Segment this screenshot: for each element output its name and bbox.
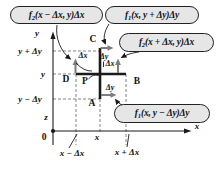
x-axis-label: x	[195, 122, 200, 131]
callout-text: f2(x + Δx, y)Δx	[139, 37, 194, 48]
y-tick-y-plus-dy: y + Δy	[18, 47, 41, 56]
x-axis-arrowhead	[184, 128, 192, 133]
leader-P-to-center	[89, 75, 99, 79]
leader-x-plus-dx	[127, 134, 129, 147]
f-args: (x + Δx, y)Δx	[145, 37, 194, 47]
f-args: (x − Δx, y)Δx	[35, 10, 84, 20]
callout-text: f2(x − Δx, y)Δx	[29, 10, 85, 21]
origin-label: 0	[42, 133, 47, 143]
point-label-D: D	[63, 75, 70, 85]
leader-dx-left-arc	[76, 63, 92, 71]
f-args: (x, y − Δy)Δy	[141, 108, 189, 118]
point-label-B: B	[134, 77, 140, 87]
segment-label-dx-left: Δx	[78, 52, 87, 60]
callout-f2-x-plus-dx: f2(x + Δx, y)Δx	[119, 33, 214, 52]
callout-text: f1(x, y + Δy)Δy	[125, 10, 179, 21]
x-tick-x-minus-dx: x − Δx	[60, 149, 85, 158]
point-label-P: P	[82, 77, 88, 87]
z-axis-label: z	[44, 113, 48, 122]
leader-to-B-arrow	[122, 52, 140, 58]
x-tick-x: x	[95, 133, 100, 142]
flux-rectangle-figure: f2(x − Δx, y)Δx f1(x, y + Δy)Δy f2(x + Δ…	[0, 0, 221, 169]
leader-to-C-arrow	[104, 24, 109, 44]
callout-f1-y-plus-dy: f1(x, y + Δy)Δy	[105, 6, 199, 24]
x-tick-x-plus-dx: x + Δx	[115, 148, 139, 157]
callout-text: f1(x, y − Δy)Δy	[135, 108, 190, 119]
y-axis-arrowhead	[50, 32, 55, 40]
flux-arrow-right-at-A	[101, 92, 117, 98]
f-args: (x, y + Δy)Δy	[131, 10, 179, 20]
y-axis-label: y	[35, 29, 39, 38]
flux-arrow-right-at-C	[101, 45, 114, 51]
y-tick-y-minus-dy: y − Δy	[18, 95, 42, 104]
flux-arrow-up-at-B	[115, 59, 121, 74]
point-label-C: C	[90, 35, 97, 45]
callout-f2-x-minus-dx: f2(x − Δx, y)Δx	[10, 6, 103, 24]
y-tick-y: y	[41, 70, 45, 79]
leader-to-D-arrow	[57, 25, 71, 59]
segment-label-dx-right: Δx	[105, 60, 114, 68]
point-label-A: A	[89, 99, 96, 109]
flux-arrow-up-at-D	[73, 59, 79, 74]
origin-dot	[51, 129, 55, 133]
segment-label-dy-bottom: Δy	[106, 84, 115, 92]
